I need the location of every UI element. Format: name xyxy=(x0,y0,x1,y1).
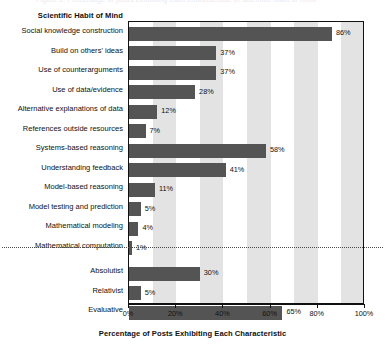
bar-row: 5% xyxy=(129,200,363,220)
bar-value-label: 58% xyxy=(270,145,285,154)
bar xyxy=(129,183,155,197)
x-axis-tick-label: 40% xyxy=(215,309,230,318)
x-axis-tick xyxy=(364,304,365,308)
bar-row: 86% xyxy=(129,24,363,44)
figure-container: Figure 2. Percentage of posts exhibiting… xyxy=(0,0,385,344)
bar-row: 30% xyxy=(129,264,363,284)
x-axis-tick-label: 0% xyxy=(123,309,134,318)
bar-row: 28% xyxy=(129,83,363,103)
bar xyxy=(129,202,141,216)
category-label: Build on others' ideas xyxy=(0,46,123,55)
category-label: Mathematical modeling xyxy=(0,221,123,230)
bar xyxy=(129,241,132,255)
x-axis-tick xyxy=(222,304,223,308)
bar-rows: 86%37%37%28%12%7%58%41%11%5%4%1%30%5%65% xyxy=(129,22,363,303)
category-label: Model-based reasoning xyxy=(0,182,123,191)
bar-row: 65% xyxy=(129,303,363,323)
bar xyxy=(129,85,195,99)
x-axis-line xyxy=(128,304,364,305)
bar xyxy=(129,66,216,80)
category-label: Model testing and prediction xyxy=(0,202,123,211)
bar-value-label: 37% xyxy=(220,48,235,57)
bar-value-label: 65% xyxy=(286,307,301,316)
x-axis-tick xyxy=(128,304,129,308)
category-label: Understanding feedback xyxy=(0,163,123,172)
category-label: Mathematical computation xyxy=(0,241,123,250)
plot-area: 86%37%37%28%12%7%58%41%11%5%4%1%30%5%65% xyxy=(128,21,364,304)
bar-row: 4% xyxy=(129,219,363,239)
category-label: References outside resources xyxy=(0,124,123,133)
x-axis-tick-label: 80% xyxy=(309,309,324,318)
x-axis-tick-label: 100% xyxy=(355,309,374,318)
x-axis-tick xyxy=(175,304,176,308)
bar xyxy=(129,124,146,138)
category-label: Systems-based reasoning xyxy=(0,143,123,152)
bar-row: 7% xyxy=(129,122,363,142)
bar-value-label: 28% xyxy=(199,87,214,96)
bar-row: 12% xyxy=(129,102,363,122)
bar xyxy=(129,105,157,119)
bar-row: 1% xyxy=(129,239,363,259)
bar xyxy=(129,27,332,41)
x-axis-tick-label: 20% xyxy=(168,309,183,318)
clipped-caption-remnant: Figure 2. Percentage of posts exhibiting… xyxy=(36,0,356,5)
category-label: Use of data/evidence xyxy=(0,85,123,94)
bar xyxy=(129,222,138,236)
category-label: Alternative explanations of data xyxy=(0,104,123,113)
bar xyxy=(129,144,266,158)
bar-row: 37% xyxy=(129,44,363,64)
category-label: Relativist xyxy=(0,286,123,295)
bar xyxy=(129,46,216,60)
bar-value-label: 12% xyxy=(161,106,176,115)
category-label: Evaluative xyxy=(0,305,123,314)
group-separator-line xyxy=(2,247,383,248)
bar-value-label: 5% xyxy=(145,288,156,297)
x-axis-tick xyxy=(317,304,318,308)
bar-row: 11% xyxy=(129,180,363,200)
bar-value-label: 30% xyxy=(204,268,219,277)
bar-value-label: 37% xyxy=(220,67,235,76)
bar xyxy=(129,163,226,177)
x-axis-tick xyxy=(270,304,271,308)
bar-value-label: 5% xyxy=(145,204,156,213)
x-axis-tick-label: 60% xyxy=(262,309,277,318)
bar-value-label: 86% xyxy=(336,28,351,37)
chart-group-title: Scientific Habit of Mind xyxy=(0,11,123,20)
bar-value-label: 4% xyxy=(142,223,153,232)
bar-value-label: 11% xyxy=(159,184,173,193)
bar xyxy=(129,286,141,300)
bar xyxy=(129,267,200,281)
x-axis-title: Percentage of Posts Exhibiting Each Char… xyxy=(0,329,385,338)
category-label: Absolutist xyxy=(0,266,123,275)
category-label: Use of counterarguments xyxy=(0,65,123,74)
bar-value-label: 7% xyxy=(150,126,161,135)
bar xyxy=(129,306,282,320)
clipped-caption-text: Figure 2. Percentage of posts exhibiting… xyxy=(36,0,356,3)
bar-row: 41% xyxy=(129,161,363,181)
bar-row: 5% xyxy=(129,284,363,304)
category-label: Social knowledge construction xyxy=(0,26,123,35)
bar-row: 37% xyxy=(129,63,363,83)
bar-row: 58% xyxy=(129,141,363,161)
bar-value-label: 41% xyxy=(230,165,245,174)
